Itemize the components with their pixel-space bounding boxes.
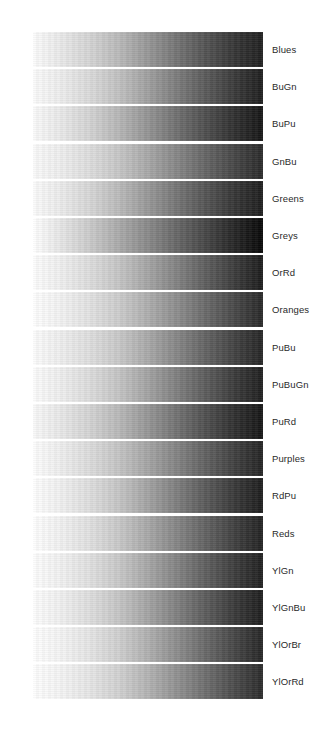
colormap-bar-purples	[33, 441, 263, 476]
colormap-row: Blues	[0, 32, 327, 67]
colormap-bar-greens	[33, 181, 263, 216]
colormap-bar-rdpu	[33, 478, 263, 513]
colormap-list: BluesBuGnBuPuGnBuGreensGreysOrRdOrangesP…	[0, 0, 327, 739]
colormap-label: Greys	[272, 218, 298, 253]
colormap-label: RdPu	[272, 478, 296, 513]
colormap-label: BuPu	[272, 106, 296, 141]
colormap-bar-blues	[33, 32, 263, 67]
colormap-label: GnBu	[272, 144, 297, 179]
colormap-label: Oranges	[272, 292, 309, 327]
colormap-label: YlGnBu	[272, 590, 305, 625]
colormap-row: BuGn	[0, 69, 327, 104]
colormap-row: Greens	[0, 181, 327, 216]
colormap-row: YlOrBr	[0, 627, 327, 662]
colormap-bar-oranges	[33, 292, 263, 327]
colormap-label: PuBuGn	[272, 367, 309, 402]
colormap-label: YlGn	[272, 553, 294, 588]
colormap-bar-orrd	[33, 255, 263, 290]
colormap-label: Purples	[272, 441, 305, 476]
colormap-row: GnBu	[0, 144, 327, 179]
colormap-bar-ylorrd	[33, 664, 263, 699]
colormap-row: YlGnBu	[0, 590, 327, 625]
colormap-row: PuBuGn	[0, 367, 327, 402]
colormap-row: Reds	[0, 516, 327, 551]
colormap-bar-ylgn	[33, 553, 263, 588]
colormap-label: Blues	[272, 32, 296, 67]
colormap-label: PuBu	[272, 330, 296, 365]
colormap-bar-purd	[33, 404, 263, 439]
colormap-bar-pubugn	[33, 367, 263, 402]
colormap-bar-bupu	[33, 106, 263, 141]
colormap-label: Reds	[272, 516, 295, 551]
colormap-label: Greens	[272, 181, 304, 216]
colormap-row: RdPu	[0, 478, 327, 513]
colormap-bar-gnbu	[33, 144, 263, 179]
colormap-row: Oranges	[0, 292, 327, 327]
colormap-row: PuBu	[0, 330, 327, 365]
colormap-bar-pubu	[33, 330, 263, 365]
colormap-bar-ylorbr	[33, 627, 263, 662]
colormap-figure: BluesBuGnBuPuGnBuGreensGreysOrRdOrangesP…	[0, 0, 327, 739]
colormap-row: YlGn	[0, 553, 327, 588]
colormap-bar-reds	[33, 516, 263, 551]
colormap-label: BuGn	[272, 69, 297, 104]
colormap-label: PuRd	[272, 404, 296, 439]
colormap-row: YlOrRd	[0, 664, 327, 699]
colormap-bar-ylgnbu	[33, 590, 263, 625]
colormap-row: PuRd	[0, 404, 327, 439]
colormap-row: BuPu	[0, 106, 327, 141]
colormap-bar-bugn	[33, 69, 263, 104]
colormap-row: Greys	[0, 218, 327, 253]
colormap-label: YlOrBr	[272, 627, 301, 662]
colormap-label: YlOrRd	[272, 664, 304, 699]
colormap-row: OrRd	[0, 255, 327, 290]
colormap-bar-greys	[33, 218, 263, 253]
colormap-label: OrRd	[272, 255, 295, 290]
colormap-row: Purples	[0, 441, 327, 476]
